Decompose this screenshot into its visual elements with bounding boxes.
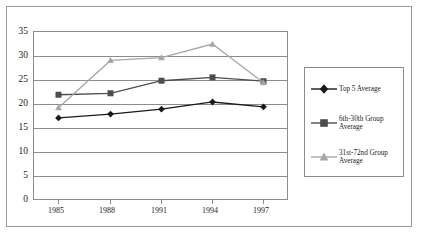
data-point-triangle bbox=[209, 41, 216, 47]
data-point-square bbox=[56, 92, 62, 98]
x-tick-mark bbox=[263, 200, 264, 204]
x-tick-label: 1994 bbox=[190, 206, 230, 216]
data-point-square bbox=[159, 78, 165, 84]
y-tick-label: 5 bbox=[23, 170, 28, 180]
y-tick-label: 20 bbox=[19, 98, 29, 108]
data-point-diamond bbox=[260, 103, 267, 110]
y-tick-label: 30 bbox=[19, 50, 29, 60]
x-tick-label: 1991 bbox=[139, 206, 179, 216]
series-line bbox=[59, 44, 264, 108]
data-point-square bbox=[108, 90, 114, 96]
series-square bbox=[56, 74, 267, 97]
legend-item-top-5-average[interactable]: Top 5 Average bbox=[309, 74, 403, 104]
legend-item-label: 31st-72nd Group Average bbox=[339, 149, 388, 166]
data-point-diamond bbox=[158, 106, 165, 113]
square-marker-icon bbox=[309, 114, 339, 132]
legend: Top 5 Average 6th-30th Group Average 31s… bbox=[304, 67, 404, 177]
y-tick-label: 15 bbox=[19, 122, 29, 132]
data-point-square bbox=[210, 74, 216, 80]
y-tick-label: 10 bbox=[19, 146, 29, 156]
legend-item-6th-30th-group-average[interactable]: 6th-30th Group Average bbox=[309, 108, 403, 138]
x-tick-mark bbox=[161, 200, 162, 204]
data-point-diamond bbox=[107, 111, 114, 118]
chart-screenshot: 35 30 25 20 15 10 5 0 1985 1988 1991 199… bbox=[0, 0, 421, 236]
y-tick-label: 25 bbox=[19, 74, 29, 84]
x-tick-mark bbox=[58, 200, 59, 204]
data-point-diamond bbox=[55, 115, 62, 122]
chart-plot bbox=[33, 31, 288, 200]
y-tick-label: 35 bbox=[19, 26, 29, 36]
triangle-marker-icon bbox=[309, 148, 339, 166]
x-tick-label: 1997 bbox=[241, 206, 281, 216]
series-triangle bbox=[55, 41, 267, 111]
legend-item-31st-72nd-group-average[interactable]: 31st-72nd Group Average bbox=[309, 142, 403, 172]
y-tick-label: 0 bbox=[23, 194, 28, 204]
data-point-diamond bbox=[209, 99, 216, 106]
x-tick-mark bbox=[212, 200, 213, 204]
legend-item-label: 6th-30th Group Average bbox=[339, 115, 384, 132]
x-tick-mark bbox=[110, 200, 111, 204]
diamond-marker-icon bbox=[309, 80, 339, 98]
x-tick-label: 1988 bbox=[87, 206, 127, 216]
series-diamond bbox=[55, 99, 267, 122]
x-tick-label: 1985 bbox=[36, 206, 76, 216]
legend-item-label: Top 5 Average bbox=[339, 85, 381, 93]
y-axis: 35 30 25 20 15 10 5 0 bbox=[0, 0, 28, 236]
